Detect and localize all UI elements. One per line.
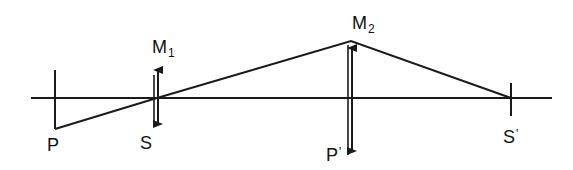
label-p-prime-mark: ' <box>339 145 341 159</box>
label-m1-subscript: 1 <box>168 46 175 60</box>
label-m2-text: M <box>352 13 367 33</box>
label-p-text: P <box>47 135 59 155</box>
label-p-prime: P' <box>326 146 341 164</box>
label-m2-subscript: 2 <box>368 22 375 36</box>
label-p: P <box>47 136 59 154</box>
label-s-prime: S' <box>503 128 518 146</box>
label-p-prime-text: P <box>326 145 338 165</box>
light-ray <box>55 41 511 129</box>
label-m1: M1 <box>152 38 175 56</box>
label-s: S <box>140 134 152 152</box>
label-s-prime-text: S <box>503 127 515 147</box>
label-m1-text: M <box>152 37 167 57</box>
label-m2: M2 <box>352 14 375 32</box>
lens-m2 <box>348 45 352 155</box>
label-s-text: S <box>140 133 152 153</box>
label-s-prime-mark: ' <box>516 127 518 141</box>
optical-ray-diagram <box>0 0 573 170</box>
